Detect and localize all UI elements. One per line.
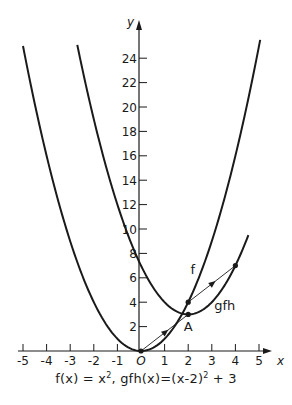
curve-gfh: [77, 45, 248, 315]
y-tick-label: 22: [122, 76, 137, 90]
x-tick-label: -4: [41, 354, 53, 368]
y-tick-label: 4: [129, 296, 137, 310]
y-axis-arrow-icon: [136, 20, 142, 30]
x-tick-label: -1: [111, 354, 123, 368]
parabola-chart: -5-4-3-2-1O1234524681012141618202224 xyf…: [0, 0, 292, 405]
arrowhead-icon: [208, 281, 215, 288]
point-label-A: A: [184, 319, 193, 334]
y-tick-label: 14: [122, 174, 137, 188]
x-tick-label: 5: [255, 354, 263, 368]
x-tick-label: O: [136, 354, 145, 368]
y-tick-label: 16: [122, 149, 137, 163]
chart-caption: f(x) = x2, gfh(x)=(x-2)2 + 3: [0, 371, 292, 386]
x-tick-label: 4: [232, 354, 240, 368]
axes: -5-4-3-2-1O1234524681012141618202224: [17, 20, 272, 368]
caption-sep: ,: [111, 371, 120, 386]
x-axis-arrow-icon: [263, 348, 272, 354]
y-axis-label: y: [126, 15, 135, 29]
y-tick-label: 12: [122, 198, 137, 212]
data-point: [233, 263, 238, 268]
x-tick-label: -5: [17, 354, 29, 368]
data-point: [186, 312, 191, 317]
curve-label-f: f: [191, 262, 196, 277]
y-tick-label: 18: [122, 125, 137, 139]
x-tick-label: -2: [88, 354, 100, 368]
x-tick-label: -3: [64, 354, 76, 368]
x-axis-label: x: [276, 354, 285, 368]
caption-f: f(x) = x: [55, 371, 106, 386]
y-tick-label: 24: [122, 52, 137, 66]
y-tick-label: 20: [122, 101, 137, 115]
x-tick-label: 3: [208, 354, 216, 368]
caption-gfh-tail: + 3: [208, 371, 236, 386]
y-tick-label: 6: [129, 271, 137, 285]
data-point: [138, 348, 143, 353]
data-point: [186, 300, 191, 305]
x-tick-label: 1: [161, 354, 169, 368]
y-tick-label: 2: [129, 320, 137, 334]
caption-gfh: gfh(x)=(x-2): [120, 371, 203, 386]
x-tick-label: 2: [184, 354, 192, 368]
curve-label-gfh: gfh: [214, 298, 235, 313]
labels: xyfgfhA: [126, 15, 285, 368]
